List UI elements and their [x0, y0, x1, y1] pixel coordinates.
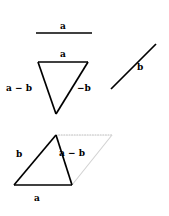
panel-parallelogram-construction — [14, 135, 112, 185]
label-triangle-vector-a-minus-b: a − b — [6, 84, 32, 93]
vector-diagram-figure: a a a − b −b b b a − b a — [0, 0, 169, 216]
triangle-vector-a-minus-b-arrowhead — [45, 83, 48, 91]
triangle-vector-minus-b-arrowhead — [70, 83, 75, 90]
bottom-vector-b-arrowhead — [29, 161, 35, 168]
label-vector-a-standalone: a — [60, 22, 66, 31]
label-triangle-vector-minus-b: −b — [77, 84, 91, 93]
vector-b-standalone-arrowhead — [127, 68, 133, 74]
label-bottom-vector-a: a — [34, 194, 40, 203]
construction-gray-right-edge — [72, 135, 112, 185]
bottom-vector-b-shaft — [14, 135, 56, 185]
label-bottom-vector-a-minus-b: a − b — [59, 149, 85, 158]
label-bottom-vector-b: b — [16, 150, 22, 159]
vector-canvas — [0, 0, 169, 216]
vector-b-standalone-shaft — [111, 44, 156, 89]
label-triangle-vector-a: a — [60, 50, 66, 59]
triangle-vector-a-minus-b-shaft — [38, 62, 56, 114]
panel-vector-b-standalone — [111, 44, 156, 89]
label-vector-b-standalone: b — [137, 63, 143, 72]
